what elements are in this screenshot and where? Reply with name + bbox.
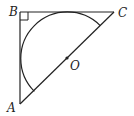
right-angle-marker: [20, 12, 28, 20]
semicircle-arc: [21, 12, 100, 91]
label-o: O: [70, 59, 80, 73]
geometry-figure: B C A O: [0, 0, 134, 116]
center-point-o: [65, 56, 68, 59]
label-c: C: [118, 6, 127, 20]
label-a: A: [6, 101, 16, 115]
label-b: B: [8, 5, 18, 19]
